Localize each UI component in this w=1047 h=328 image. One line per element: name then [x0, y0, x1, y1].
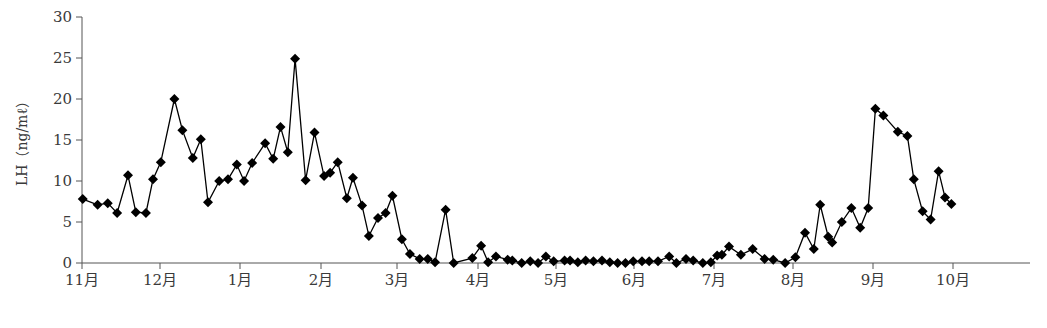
lh-line-chart: 051015202530 11月12月1月2月3月4月5月6月7月8月9月10月… — [0, 0, 1047, 328]
x-tick-label: 6月 — [622, 271, 647, 289]
data-point-diamond — [348, 173, 358, 183]
data-point-diamond — [260, 138, 270, 148]
data-point-diamond — [790, 252, 800, 262]
data-point-diamond — [909, 174, 919, 184]
data-point-diamond — [387, 191, 397, 201]
data-point-diamond — [148, 174, 158, 184]
y-axis: 051015202530 — [53, 8, 82, 272]
data-point-diamond — [565, 256, 575, 266]
data-point-diamond — [491, 251, 501, 261]
data-point-diamond — [364, 231, 374, 241]
data-point-diamond — [78, 194, 88, 204]
x-tick-label: 12月 — [143, 271, 177, 289]
y-tick-label: 30 — [53, 8, 72, 26]
data-point-diamond — [780, 258, 790, 268]
data-point-diamond — [736, 250, 746, 260]
x-tick-label: 2月 — [309, 271, 334, 289]
data-point-diamond — [573, 257, 583, 267]
data-point-diamond — [581, 256, 591, 266]
data-point-diamond — [855, 223, 865, 233]
data-point-diamond — [214, 176, 224, 186]
data-point-diamond — [93, 200, 103, 210]
data-point-diamond — [597, 256, 607, 266]
data-point-diamond — [483, 257, 493, 267]
data-point-diamond — [123, 170, 133, 180]
data-point-diamond — [342, 193, 352, 203]
x-axis: 11月12月1月2月3月4月5月6月7月8月9月10月 — [65, 263, 1030, 289]
data-point-diamond — [620, 258, 630, 268]
data-point-diamond — [381, 208, 391, 218]
data-point-diamond — [290, 54, 300, 64]
data-point-diamond — [837, 217, 847, 227]
data-point-diamond — [397, 234, 407, 244]
data-point-diamond — [283, 147, 293, 157]
data-point-diamond — [131, 207, 141, 217]
data-point-diamond — [644, 256, 654, 266]
data-point-diamond — [902, 131, 912, 141]
data-point-diamond — [525, 256, 535, 266]
data-point-diamond — [863, 203, 873, 213]
series-line — [83, 59, 952, 263]
data-point-diamond — [247, 158, 257, 168]
data-point-diamond — [681, 254, 691, 264]
data-point-diamond — [169, 94, 179, 104]
data-point-diamond — [549, 256, 559, 266]
data-point-diamond — [588, 256, 598, 266]
data-point-diamond — [628, 256, 638, 266]
data-point-diamond — [605, 257, 615, 267]
data-point-diamond — [467, 253, 477, 263]
data-point-diamond — [276, 122, 286, 132]
x-tick-label: 1月 — [228, 271, 253, 289]
data-point-diamond — [333, 157, 343, 167]
data-point-diamond — [301, 175, 311, 185]
data-point-diamond — [441, 205, 451, 215]
data-point-diamond — [815, 200, 825, 210]
data-point-diamond — [203, 197, 213, 207]
data-point-diamond — [223, 174, 233, 184]
x-tick-label: 5月 — [544, 271, 569, 289]
data-point-diamond — [698, 258, 708, 268]
y-tick-label: 20 — [53, 90, 72, 108]
data-point-diamond — [357, 201, 367, 211]
data-point-diamond — [196, 134, 206, 144]
data-point-diamond — [517, 258, 527, 268]
data-point-diamond — [239, 176, 249, 186]
x-tick-label: 10月 — [936, 271, 970, 289]
data-point-diamond — [310, 128, 320, 138]
data-point-diamond — [688, 256, 698, 266]
data-point-diamond — [653, 256, 663, 266]
x-tick-label: 8月 — [781, 271, 806, 289]
data-point-diamond — [373, 213, 383, 223]
data-point-diamond — [809, 244, 819, 254]
data-point-diamond — [405, 249, 415, 259]
data-point-diamond — [846, 203, 856, 213]
y-tick-label: 10 — [53, 172, 72, 190]
x-tick-label: 7月 — [702, 271, 727, 289]
data-point-diamond — [177, 125, 187, 135]
data-point-diamond — [188, 153, 198, 163]
x-tick-label: 4月 — [466, 271, 491, 289]
data-point-diamond — [141, 208, 151, 218]
y-tick-label: 15 — [53, 131, 72, 149]
data-point-diamond — [268, 154, 278, 164]
data-point-diamond — [934, 166, 944, 176]
data-series — [78, 54, 957, 268]
y-axis-title: LH（ng/mℓ） — [14, 94, 30, 186]
x-tick-label: 3月 — [385, 271, 410, 289]
y-tick-label: 5 — [62, 213, 72, 231]
y-tick-label: 25 — [53, 49, 72, 67]
data-point-diamond — [476, 241, 486, 251]
data-point-diamond — [800, 228, 810, 238]
data-point-diamond — [449, 258, 459, 268]
data-point-diamond — [156, 157, 166, 167]
data-point-diamond — [232, 160, 242, 170]
x-tick-label: 11月 — [65, 271, 99, 289]
x-tick-label: 9月 — [861, 271, 886, 289]
y-tick-label: 0 — [62, 254, 72, 272]
